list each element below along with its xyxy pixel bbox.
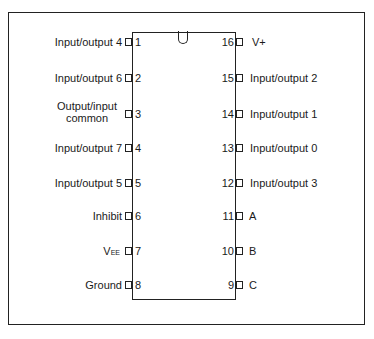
pin-6-square [125,212,132,220]
pin-1-label: Input/output 4 [55,36,122,48]
pin-9-number: 9 [228,279,234,291]
pin-8-number: 8 [135,279,141,291]
pin-11-label: A [249,210,256,222]
pin-6-label: Inhibit [93,210,122,222]
pin-7-label-sub: EE [111,249,120,256]
pin-13-square [236,144,243,152]
pin-5-square [125,179,132,187]
pin-3-label-line2: common [52,112,122,124]
pin-7-number: 7 [135,245,141,257]
pin-14-square [236,110,243,118]
pin-10-label: B [249,245,256,257]
pin-13-label: Input/output 0 [250,142,317,154]
pin-3-label: Output/input common [52,100,122,124]
pin-9-label: C [249,279,257,291]
pin-15-square [236,74,243,82]
pin-12-number: 12 [222,177,234,189]
pin-14-number: 14 [222,108,234,120]
pin-11-square [236,212,243,220]
pin-16-label: V+ [252,36,266,48]
pin-15-number: 15 [222,72,234,84]
pin-16-number: 16 [222,36,234,48]
pin-4-number: 4 [135,142,141,154]
pin-13-number: 13 [222,142,234,154]
pin-14-label: Input/output 1 [250,108,317,120]
chip-body [132,32,236,300]
pin-12-label: Input/output 3 [250,177,317,189]
pin-7-square [125,247,132,255]
pin-10-square [236,247,243,255]
pin-2-number: 2 [135,72,141,84]
pin-5-label: Input/output 5 [55,177,122,189]
pin-3-square [125,110,132,118]
pin-16-square [236,38,243,46]
pin-8-label: Ground [85,279,122,291]
pin-4-square [125,144,132,152]
orientation-notch-icon [178,31,188,44]
pin-8-square [125,281,132,289]
pin-7-label: VEE [103,245,120,259]
pin-2-square [125,74,132,82]
pin-1-square [125,38,132,46]
pin-4-label: Input/output 7 [55,142,122,154]
pin-9-square [236,281,243,289]
pin-5-number: 5 [135,177,141,189]
pin-1-number: 1 [135,36,141,48]
pin-6-number: 6 [135,210,141,222]
pin-12-square [236,179,243,187]
pin-2-label: Input/output 6 [55,72,122,84]
pin-11-number: 11 [223,210,234,222]
pin-3-number: 3 [135,108,141,120]
pin-15-label: Input/output 2 [250,72,317,84]
pin-7-label-main: V [103,245,110,257]
pin-10-number: 10 [222,245,234,257]
pin-3-label-line1: Output/input [52,100,122,112]
